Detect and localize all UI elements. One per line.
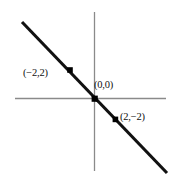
point-marker-neg2-2: [67, 67, 73, 73]
point-label-origin: (0,0): [94, 80, 113, 91]
graph-canvas: [0, 0, 179, 182]
point-label-neg2-2: (−2,2): [23, 68, 48, 79]
point-marker-origin: [92, 96, 98, 102]
coordinate-plane-figure: (−2,2) (0,0) (2,−2): [0, 0, 179, 182]
point-label-2-neg2: (2,−2): [120, 112, 145, 123]
point-marker-2-neg2: [113, 117, 119, 123]
